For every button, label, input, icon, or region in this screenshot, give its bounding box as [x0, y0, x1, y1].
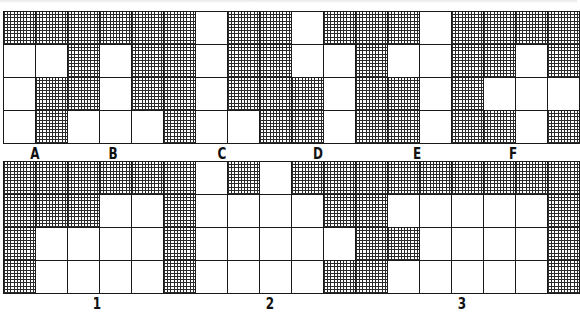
hatched-cell: [132, 45, 164, 78]
blank-cell: [36, 261, 68, 294]
blank-cell: [4, 45, 36, 78]
hatched-cell: [132, 78, 164, 111]
blank-cell: [100, 261, 132, 294]
blank-cell: [516, 45, 548, 78]
hatched-cell: [164, 111, 196, 144]
hatched-cell: [164, 78, 196, 111]
blank-cell: [292, 45, 324, 78]
blank-cell: [132, 261, 164, 294]
blank-cell: [292, 228, 324, 261]
hatched-cell: [548, 228, 580, 261]
blank-cell: [196, 12, 228, 45]
hatched-cell: [100, 12, 132, 45]
blank-cell: [196, 162, 228, 195]
hatched-cell: [228, 162, 260, 195]
blank-cell: [388, 45, 420, 78]
hatched-cell: [228, 45, 260, 78]
hatched-cell: [356, 45, 388, 78]
blank-cell: [196, 228, 228, 261]
hatched-cell: [548, 162, 580, 195]
hatched-cell: [260, 45, 292, 78]
blank-cell: [36, 45, 68, 78]
hatched-cell: [132, 162, 164, 195]
blank-cell: [196, 261, 228, 294]
blank-cell: [516, 228, 548, 261]
hatched-cell: [356, 261, 388, 294]
blank-cell: [36, 228, 68, 261]
blank-cell: [484, 78, 516, 111]
blank-cell: [484, 195, 516, 228]
blank-cell: [100, 78, 132, 111]
hatched-cell: [228, 12, 260, 45]
hatched-cell: [4, 162, 36, 195]
hatched-cell: [68, 162, 100, 195]
hatched-cell: [36, 162, 68, 195]
blank-cell: [388, 261, 420, 294]
hatched-cell: [516, 12, 548, 45]
blank-cell: [196, 111, 228, 144]
panel-label: B: [108, 147, 117, 162]
hatched-cell: [356, 162, 388, 195]
blank-cell: [68, 228, 100, 261]
hatched-cell: [356, 111, 388, 144]
top-edge-shadow: [0, 0, 577, 3]
blank-cell: [4, 111, 36, 144]
blank-cell: [100, 111, 132, 144]
hatched-cell: [228, 78, 260, 111]
hatched-cell: [164, 228, 196, 261]
blank-cell: [260, 261, 292, 294]
hatched-cell: [68, 195, 100, 228]
hatched-cell: [388, 12, 420, 45]
blank-cell: [452, 195, 484, 228]
blank-cell: [420, 228, 452, 261]
hatched-cell: [388, 162, 420, 195]
hatched-cell: [260, 12, 292, 45]
hatched-cell: [324, 162, 356, 195]
hatched-cell: [484, 12, 516, 45]
panel-label: E: [413, 147, 421, 162]
blank-cell: [100, 195, 132, 228]
blank-cell: [420, 45, 452, 78]
blank-cell: [260, 162, 292, 195]
panel-label: 1: [93, 297, 101, 312]
hatched-cell: [356, 78, 388, 111]
hatched-cell: [356, 12, 388, 45]
blank-cell: [324, 228, 356, 261]
hatched-cell: [516, 162, 548, 195]
hatched-cell: [164, 261, 196, 294]
hatched-cell: [292, 162, 324, 195]
hatched-cell: [4, 195, 36, 228]
blank-cell: [548, 78, 580, 111]
blank-cell: [196, 45, 228, 78]
hatched-cell: [68, 78, 100, 111]
blank-cell: [228, 111, 260, 144]
hatched-cell: [164, 162, 196, 195]
blank-cell: [452, 228, 484, 261]
blank-cell: [484, 228, 516, 261]
blank-cell: [420, 78, 452, 111]
blank-cell: [68, 111, 100, 144]
hatched-cell: [4, 12, 36, 45]
hatched-cell: [452, 111, 484, 144]
blank-cell: [132, 111, 164, 144]
hatched-cell: [164, 195, 196, 228]
hatched-cell: [420, 162, 452, 195]
hatched-cell: [548, 261, 580, 294]
blank-cell: [4, 78, 36, 111]
hatched-cell: [388, 228, 420, 261]
hatched-cell: [68, 12, 100, 45]
blank-cell: [228, 195, 260, 228]
panel-label: 2: [266, 297, 274, 312]
blank-cell: [420, 12, 452, 45]
blank-cell: [420, 111, 452, 144]
hatched-cell: [292, 78, 324, 111]
hatched-cell: [4, 261, 36, 294]
panel-label: 3: [458, 297, 466, 312]
blank-cell: [420, 261, 452, 294]
blank-cell: [292, 12, 324, 45]
hatched-cell: [548, 111, 580, 144]
blank-cell: [324, 45, 356, 78]
blank-cell: [196, 195, 228, 228]
hatched-cell: [452, 45, 484, 78]
blank-cell: [388, 195, 420, 228]
